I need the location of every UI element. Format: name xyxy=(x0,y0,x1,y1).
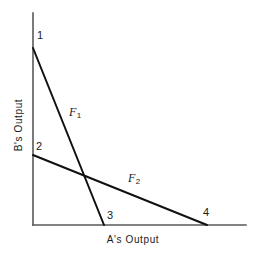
curve-f1 xyxy=(33,48,104,225)
point-label-2: 2 xyxy=(36,141,42,152)
curve-f2 xyxy=(33,155,207,225)
curve-label-f1: F1 xyxy=(69,106,81,118)
curve-label-f2-subscript: 2 xyxy=(136,177,140,186)
curve-label-f2: F2 xyxy=(128,172,140,184)
point-label-4: 4 xyxy=(203,207,209,218)
figure-diagram: 1 2 3 4 F1 F2 A's Output B's Output xyxy=(0,0,261,255)
x-axis-title: A's Output xyxy=(88,235,178,245)
curve-label-f1-letter: F xyxy=(69,105,76,119)
point-label-3: 3 xyxy=(107,210,113,221)
curve-label-f1-subscript: 1 xyxy=(77,111,81,120)
curve-label-f2-letter: F xyxy=(128,171,135,185)
y-axis-title: B's Output xyxy=(14,80,24,170)
point-label-1: 1 xyxy=(37,30,43,41)
